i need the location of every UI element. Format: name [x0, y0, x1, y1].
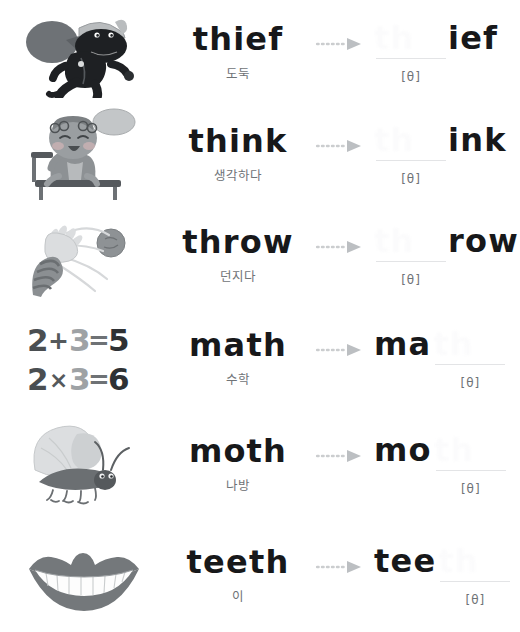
dotted-arrow-right-icon	[316, 343, 362, 357]
split-word-cell: tee th [θ]	[370, 544, 520, 606]
blank-underline	[376, 261, 446, 262]
svg-text:2: 2	[27, 322, 49, 358]
word-fragment: mo	[374, 433, 432, 467]
word-row: think 생각하다 th [θ] ink	[0, 104, 520, 204]
fill-in-blank[interactable]: th [θ]	[374, 224, 448, 286]
word-fragment: tee	[374, 544, 436, 578]
word-cell: math 수학	[168, 329, 308, 386]
korean-translation: 나방	[226, 480, 250, 493]
word-text: moth	[189, 435, 287, 469]
blank-underline	[435, 364, 505, 365]
blank-underline	[436, 470, 506, 471]
word-row: 2 + 3 = 5 2 × 3 = 6 math 수학	[0, 305, 520, 410]
blank-ghost: th	[374, 123, 448, 157]
arrow-cell	[308, 343, 370, 373]
split-word-cell: th [θ] ink	[370, 123, 520, 185]
phonetic-symbol: [θ]	[461, 483, 481, 495]
dotted-arrow-right-icon	[316, 560, 362, 574]
svg-text:5: 5	[108, 322, 130, 358]
word-fragment: ma	[374, 327, 431, 361]
split-word-cell: mo th [θ]	[370, 433, 520, 495]
illustration-math: 2 + 3 = 5 2 × 3 = 6	[0, 305, 168, 410]
blank-ghost: th	[374, 21, 448, 55]
word-fragment: ief	[448, 21, 498, 55]
dotted-arrow-right-icon	[316, 139, 362, 153]
word-text: teeth	[187, 546, 290, 580]
word-row: teeth 이 tee th [θ]	[0, 517, 520, 632]
korean-translation: 수학	[226, 374, 250, 387]
korean-translation: 던지다	[220, 271, 257, 284]
smiling-mouth-with-teeth-icon	[19, 533, 149, 617]
word-text: thief	[193, 23, 284, 57]
illustration-thief	[0, 0, 168, 104]
svg-text:=: =	[88, 364, 110, 394]
svg-text:6: 6	[108, 361, 130, 397]
blank-ghost: th	[438, 544, 512, 578]
split-word-cell: th [θ] ief	[370, 21, 520, 83]
word-cell: thief 도둑	[168, 23, 308, 80]
svg-text:×: ×	[49, 367, 68, 393]
moth-icon	[19, 418, 149, 510]
illustration-moth	[0, 410, 168, 517]
word-row: throw 던지다 th [θ] row	[0, 204, 520, 305]
word-text: throw	[182, 226, 293, 260]
child-on-bench-with-thought-bubble-icon	[19, 108, 149, 200]
phonetic-symbol: [θ]	[401, 173, 421, 185]
running-thief-with-sack-icon	[19, 6, 149, 98]
math-equations-icon: 2 + 3 = 5 2 × 3 = 6	[19, 318, 149, 398]
illustration-teeth	[0, 517, 168, 632]
dotted-arrow-right-icon	[316, 240, 362, 254]
blank-ghost: th	[374, 224, 448, 258]
word-row: thief 도둑 th [θ] ief	[0, 0, 520, 104]
dotted-arrow-right-icon	[316, 449, 362, 463]
korean-translation: 이	[232, 591, 244, 604]
korean-translation: 도둑	[226, 68, 250, 81]
word-cell: teeth 이	[168, 546, 308, 603]
fill-in-blank[interactable]: th [θ]	[434, 433, 508, 495]
split-word-cell: th [θ] row	[370, 224, 520, 286]
korean-translation: 생각하다	[214, 170, 263, 183]
word-cell: moth 나방	[168, 435, 308, 492]
svg-text:2: 2	[27, 361, 49, 397]
word-fragment: row	[448, 224, 519, 258]
word-text: think	[188, 125, 287, 159]
arm-throwing-ball-icon	[19, 209, 149, 301]
arrow-cell	[308, 449, 370, 479]
blank-underline	[376, 160, 446, 161]
word-text: math	[189, 329, 287, 363]
blank-ghost: th	[434, 433, 508, 467]
fill-in-blank[interactable]: th [θ]	[374, 21, 448, 83]
arrow-cell	[308, 240, 370, 270]
arrow-cell	[308, 560, 370, 590]
phonetic-symbol: [θ]	[460, 377, 480, 389]
blank-underline	[440, 581, 510, 582]
svg-text:=: =	[88, 325, 110, 355]
arrow-cell	[308, 139, 370, 169]
word-row: moth 나방 mo th [θ]	[0, 410, 520, 517]
blank-ghost: th	[433, 327, 507, 361]
blank-underline	[376, 58, 446, 59]
word-cell: think 생각하다	[168, 125, 308, 182]
word-fragment: ink	[448, 123, 507, 157]
word-cell: throw 던지다	[168, 226, 308, 283]
phonetic-symbol: [θ]	[401, 274, 421, 286]
fill-in-blank[interactable]: th [θ]	[433, 327, 507, 389]
svg-text:+: +	[48, 326, 69, 355]
fill-in-blank[interactable]: th [θ]	[374, 123, 448, 185]
split-word-cell: ma th [θ]	[370, 327, 520, 389]
phonics-worksheet: thief 도둑 th [θ] ief	[0, 0, 520, 632]
phonetic-symbol: [θ]	[401, 71, 421, 83]
phonetic-symbol: [θ]	[465, 594, 485, 606]
dotted-arrow-right-icon	[316, 37, 362, 51]
illustration-throw	[0, 204, 168, 305]
arrow-cell	[308, 37, 370, 67]
fill-in-blank[interactable]: th [θ]	[438, 544, 512, 606]
illustration-think	[0, 104, 168, 204]
